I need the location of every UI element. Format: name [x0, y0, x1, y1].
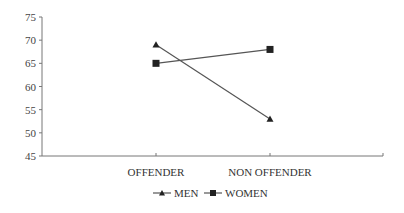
y-tick-label: 70 — [25, 34, 37, 46]
legend: MENWOMEN — [153, 187, 268, 199]
legend-label: MEN — [174, 187, 199, 199]
y-tick-label: 65 — [25, 57, 37, 69]
series-women — [153, 46, 274, 67]
y-tick-label: 45 — [25, 150, 37, 162]
triangle-marker-icon — [153, 41, 160, 47]
series-men — [153, 41, 274, 121]
series-group — [153, 41, 274, 121]
x-category-label: OFFENDER — [128, 166, 186, 178]
x-category-label: NON OFFENDER — [228, 166, 312, 178]
y-tick-label: 75 — [25, 11, 37, 23]
y-tick-label: 50 — [25, 127, 37, 139]
triangle-marker-icon — [267, 115, 274, 121]
y-tick-label: 55 — [25, 104, 37, 116]
square-marker-icon — [267, 46, 274, 53]
legend-label: WOMEN — [225, 187, 268, 199]
square-marker-icon — [210, 190, 216, 196]
legend-item-women: WOMEN — [204, 187, 268, 199]
square-marker-icon — [153, 60, 160, 67]
x-axis: OFFENDERNON OFFENDER — [42, 153, 383, 178]
legend-item-men: MEN — [153, 187, 199, 199]
y-axis: 45505560657075 — [25, 11, 42, 162]
y-tick-label: 60 — [25, 81, 37, 93]
line-chart: 45505560657075 OFFENDERNON OFFENDER MENW… — [0, 0, 404, 213]
